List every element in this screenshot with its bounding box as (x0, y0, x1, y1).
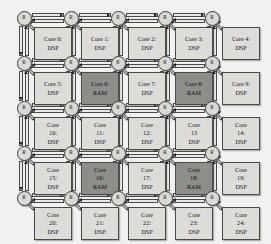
router-node-4[interactable]: R (205, 11, 220, 26)
router-label: R (210, 150, 213, 155)
core-label-line: DSP (141, 44, 152, 52)
core-label-line: DSP (141, 183, 152, 191)
core-node-23[interactable]: Core23:DSP (175, 207, 213, 240)
core-node-7[interactable]: Core 7:DSP (128, 72, 166, 105)
router-node-15[interactable]: R (17, 146, 32, 161)
core-label-line: 12: (143, 129, 151, 137)
core-node-6[interactable]: Core 6:RAM (81, 72, 119, 105)
mesh-link-vertical (213, 71, 216, 101)
router-node-24[interactable]: R (205, 191, 220, 206)
mesh-link-horizontal (32, 13, 64, 16)
mesh-link-vertical (72, 161, 75, 191)
router-node-12[interactable]: R (111, 101, 126, 116)
core-node-17[interactable]: Core17:DSP (128, 162, 166, 195)
core-node-5[interactable]: Core 5:DSP (34, 72, 72, 105)
core-node-12[interactable]: Core12:DSP (128, 117, 166, 150)
router-label: R (22, 195, 25, 200)
core-node-1[interactable]: Core 1:DSP (81, 27, 119, 60)
core-label-line: RAM (93, 183, 107, 191)
core-node-15[interactable]: Core15:DSP (34, 162, 72, 195)
mesh-link-horizontal (32, 154, 64, 157)
core-label-line: Core (235, 166, 247, 174)
router-node-13[interactable]: R (158, 101, 173, 116)
router-label: R (22, 60, 25, 65)
router-node-1[interactable]: R (64, 11, 79, 26)
router-node-20[interactable]: R (17, 191, 32, 206)
router-node-0[interactable]: R (17, 11, 32, 26)
core-label-line: DSP (141, 89, 152, 97)
mesh-link-horizontal (79, 199, 111, 202)
router-node-18[interactable]: R (158, 146, 173, 161)
core-node-24[interactable]: Core24:DSP (222, 207, 260, 240)
core-label-line: RAM (187, 183, 201, 191)
core-label-line: Core (94, 166, 106, 174)
core-label-line: Core 1: (91, 35, 109, 43)
router-node-8[interactable]: R (158, 56, 173, 71)
router-node-6[interactable]: R (64, 56, 79, 71)
mesh-link-horizontal (173, 199, 205, 202)
core-label-line: Core (188, 211, 200, 219)
mesh-link-vertical (119, 116, 122, 146)
mesh-link-horizontal (173, 13, 205, 16)
router-node-16[interactable]: R (64, 146, 79, 161)
router-node-14[interactable]: R (205, 101, 220, 116)
router-node-9[interactable]: R (205, 56, 220, 71)
core-node-22[interactable]: Core22:DSP (128, 207, 166, 240)
core-node-8[interactable]: Core 8:RAM (175, 72, 213, 105)
core-label-line: Core (47, 121, 59, 129)
router-node-2[interactable]: R (111, 11, 126, 26)
core-node-10[interactable]: Core10:DSP (34, 117, 72, 150)
mesh-link-horizontal (32, 199, 64, 202)
core-node-19[interactable]: Core19:DSP (222, 162, 260, 195)
router-label: R (22, 15, 25, 20)
router-node-5[interactable]: R (17, 56, 32, 71)
core-label-line: DSP (47, 89, 58, 97)
core-node-2[interactable]: Core 2:DSP (128, 27, 166, 60)
core-label-line: Core 0: (44, 35, 62, 43)
link-arrowhead-down (19, 142, 23, 145)
core-label-line: RAM (187, 89, 201, 97)
mesh-link-horizontal (32, 19, 64, 22)
router-node-22[interactable]: R (111, 191, 126, 206)
noc-mesh-diagram: Core 0:DSPCore 1:DSPCore 2:DSPCore 3:DSP… (0, 0, 271, 244)
core-node-16[interactable]: Core16:RAM (81, 162, 119, 195)
core-node-20[interactable]: Core20:DSP (34, 207, 72, 240)
mesh-link-vertical (72, 116, 75, 146)
core-label-line: DSP (188, 138, 199, 146)
core-label-line: DSP (235, 89, 246, 97)
core-node-11[interactable]: Core11:DSP (81, 117, 119, 150)
router-node-19[interactable]: R (205, 146, 220, 161)
core-node-3[interactable]: Core 3:DSP (175, 27, 213, 60)
router-label: R (116, 195, 119, 200)
core-label-line: DSP (47, 44, 58, 52)
core-label-line: Core (141, 211, 153, 219)
core-label-line: Core 7: (138, 80, 156, 88)
link-arrowhead-down (19, 187, 23, 190)
mesh-link-vertical (166, 116, 169, 146)
core-node-4[interactable]: Core 4:DSP (222, 27, 260, 60)
router-label: R (210, 105, 213, 110)
router-label: R (210, 60, 213, 65)
core-label-line: Core (188, 121, 200, 129)
router-node-11[interactable]: R (64, 101, 79, 116)
router-label: R (69, 195, 72, 200)
core-node-13[interactable]: Core13DSP (175, 117, 213, 150)
router-node-21[interactable]: R (64, 191, 79, 206)
mesh-link-horizontal (79, 154, 111, 157)
router-node-23[interactable]: R (158, 191, 173, 206)
core-node-21[interactable]: Core21:DSP (81, 207, 119, 240)
link-arrowhead-up (24, 71, 28, 74)
router-node-17[interactable]: R (111, 146, 126, 161)
core-node-14[interactable]: Core14:DSP (222, 117, 260, 150)
core-node-0[interactable]: Core 0:DSP (34, 27, 72, 60)
core-node-9[interactable]: Core 9:DSP (222, 72, 260, 105)
mesh-link-vertical (119, 71, 122, 101)
router-node-7[interactable]: R (111, 56, 126, 71)
mesh-link-horizontal (79, 13, 111, 16)
core-node-18[interactable]: Core18:RAM (175, 162, 213, 195)
router-node-3[interactable]: R (158, 11, 173, 26)
mesh-link-horizontal (32, 64, 64, 67)
mesh-link-vertical (25, 71, 28, 101)
mesh-link-horizontal (173, 19, 205, 22)
router-node-10[interactable]: R (17, 101, 32, 116)
